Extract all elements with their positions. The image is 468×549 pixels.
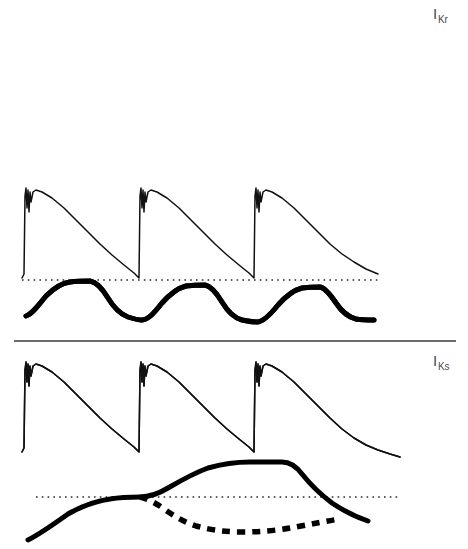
panel-label-ikr: IKr <box>433 5 448 25</box>
ikr-subscript: Kr <box>438 14 448 25</box>
traces-canvas <box>0 0 468 549</box>
action-potential-trace-panel3 <box>22 362 400 457</box>
current-ikr-trace-panel2 <box>26 281 374 322</box>
panel-iks-fast <box>22 362 400 540</box>
action-potential-trace-panel2 <box>22 188 378 278</box>
iks-symbol: I <box>433 352 437 369</box>
panel-ikr-fast <box>22 188 380 322</box>
action-potential-trace-panel1 <box>22 362 400 457</box>
iks-subscript: Ks <box>438 361 450 372</box>
panel-label-iks: IKs <box>433 352 450 372</box>
ikr-symbol: I <box>433 5 437 22</box>
figure-panel-group: IKr IKs <box>0 0 468 549</box>
current-iks-blocked-trace <box>140 497 340 532</box>
